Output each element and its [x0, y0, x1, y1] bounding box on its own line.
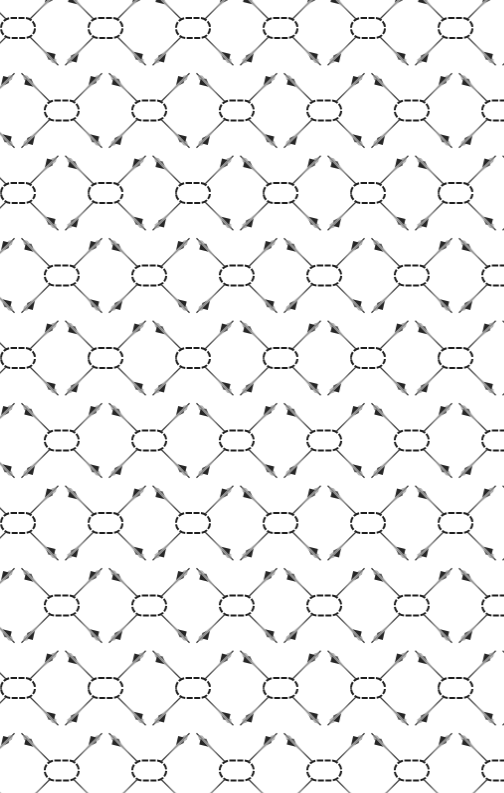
pattern-canvas: [0, 0, 504, 793]
lattice-pattern: [0, 0, 504, 793]
